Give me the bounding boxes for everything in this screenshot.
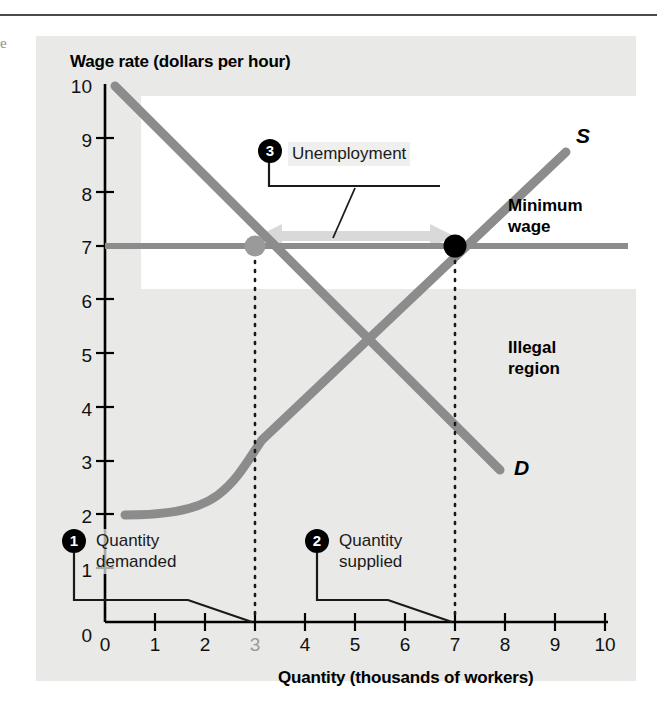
callout-3-pointer xyxy=(333,188,355,238)
y-tick-label-3: 3 xyxy=(62,452,92,474)
illegal-region-label-text: Illegal region xyxy=(508,338,560,378)
callout-3-text: Unemployment xyxy=(288,142,410,166)
callout-1-text: Quantity demanded xyxy=(92,529,180,574)
x-tick-label-8: 8 xyxy=(488,634,522,656)
x-tick-label-4: 4 xyxy=(288,634,322,656)
y-axis-title: Wage rate (dollars per hour) xyxy=(70,52,290,72)
y-tick-label-6: 6 xyxy=(62,291,92,313)
x-tick-label-6: 6 xyxy=(388,634,422,656)
y-tick-label-9: 9 xyxy=(62,130,92,152)
y-tick-label-10: 10 xyxy=(62,76,92,98)
x-tick-label-1: 1 xyxy=(138,634,172,656)
callout-1-badge: 1 xyxy=(62,529,86,553)
quantity-supplied-marker xyxy=(444,235,467,258)
x-tick-label-0: 0 xyxy=(88,634,122,656)
y-tick-label-7: 7 xyxy=(62,237,92,259)
callout-2-badge: 2 xyxy=(305,529,329,553)
callout-2-text: Quantity supplied xyxy=(335,529,406,574)
x-tick-label-10: 10 xyxy=(588,634,622,656)
x-tick-label-5: 5 xyxy=(338,634,372,656)
minimum-wage-label: Minimum wage xyxy=(508,195,583,237)
supply-curve xyxy=(125,152,566,515)
y-tick-label-8: 8 xyxy=(62,184,92,206)
x-tick-label-3: 3 xyxy=(238,634,272,656)
illegal-region-label: Illegal region xyxy=(508,337,560,379)
x-axis-title: Quantity (thousands of workers) xyxy=(278,668,533,688)
x-tick-label-9: 9 xyxy=(538,634,572,656)
x-tick-label-2: 2 xyxy=(188,634,222,656)
y-tick-label-5: 5 xyxy=(62,345,92,367)
y-tick-label-4: 4 xyxy=(62,399,92,421)
callout-3-badge: 3 xyxy=(258,139,282,163)
y-tick-label-1: 1 xyxy=(62,560,92,582)
minimum-wage-label-text: Minimum wage xyxy=(508,196,583,236)
x-tick-label-7: 7 xyxy=(438,634,472,656)
y-tick-label-2: 2 xyxy=(62,506,92,528)
demand-curve-label: D xyxy=(514,456,529,480)
supply-curve-label: S xyxy=(576,124,590,148)
quantity-demanded-marker xyxy=(245,236,266,257)
